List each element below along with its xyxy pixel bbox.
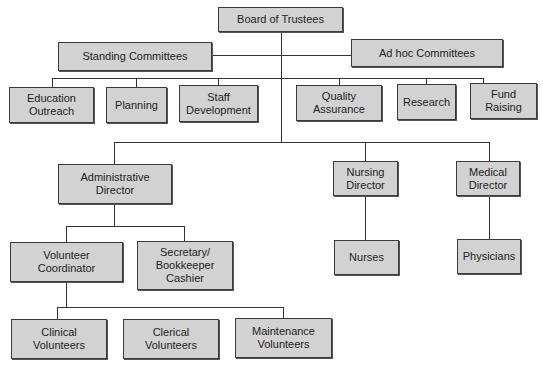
connector <box>283 307 284 318</box>
node-standing-committees: Standing Committees <box>58 42 212 71</box>
node-label: Staff Development <box>186 91 251 117</box>
node-research: Research <box>397 84 456 120</box>
node-administrative-director: Administrative Director <box>58 164 172 204</box>
node-label: Clerical Volunteers <box>145 326 197 352</box>
connector <box>218 78 219 85</box>
volunteer-branch-line <box>57 307 283 308</box>
connector <box>365 142 366 161</box>
connector <box>489 142 490 161</box>
node-label: Medical Director <box>469 166 508 192</box>
connector <box>339 78 340 85</box>
node-label: Nursing Director <box>346 166 385 192</box>
connector <box>66 282 67 307</box>
node-nursing-director: Nursing Director <box>333 161 398 196</box>
node-label: Administrative Director <box>80 171 149 197</box>
trunk-line <box>281 32 282 142</box>
node-label: Physicians <box>463 250 516 263</box>
node-clerical-volunteers: Clerical Volunteers <box>123 319 219 359</box>
node-label: Ad hoc Committees <box>379 47 475 60</box>
node-label: Quality Assurance <box>313 90 365 116</box>
node-label: Education Outreach <box>27 92 76 118</box>
connector <box>136 78 137 87</box>
connector <box>66 226 67 242</box>
admin-branch-line <box>66 226 184 227</box>
node-physicians: Physicians <box>457 239 521 274</box>
director-branch-line <box>114 142 489 143</box>
node-label: Secretary/ Bookkeeper Cashier <box>156 246 215 285</box>
node-quality-assurance: Quality Assurance <box>296 85 382 121</box>
committees-link <box>212 55 351 56</box>
node-label: Fund Raising <box>485 88 522 114</box>
node-education-outreach: Education Outreach <box>9 87 94 123</box>
node-secretary-bookkeeper-cashier: Secretary/ Bookkeeper Cashier <box>137 241 233 290</box>
node-planning: Planning <box>106 87 167 123</box>
node-label: Planning <box>115 99 158 112</box>
node-label: Research <box>403 96 450 109</box>
connector <box>365 196 366 240</box>
node-volunteer-coordinator: Volunteer Coordinator <box>10 242 123 282</box>
node-fund-raising: Fund Raising <box>470 83 537 119</box>
node-maintenance-volunteers: Maintenance Volunteers <box>235 318 332 358</box>
connector <box>114 142 115 164</box>
node-label: Volunteer Coordinator <box>38 249 95 275</box>
connector <box>489 196 490 239</box>
connector <box>184 226 185 241</box>
node-label: Standing Committees <box>82 50 187 63</box>
connector <box>52 78 53 87</box>
node-clinical-volunteers: Clinical Volunteers <box>11 319 107 359</box>
connector <box>57 307 58 319</box>
committee-branch-line <box>52 78 484 79</box>
node-label: Board of Trustees <box>237 13 324 26</box>
node-label: Clinical Volunteers <box>33 326 85 352</box>
node-medical-director: Medical Director <box>456 161 520 196</box>
node-board-of-trustees: Board of Trustees <box>218 7 343 32</box>
connector <box>114 204 115 226</box>
node-ad-hoc-committees: Ad hoc Committees <box>351 39 503 67</box>
node-nurses: Nurses <box>334 240 399 275</box>
node-label: Maintenance Volunteers <box>252 325 315 351</box>
node-staff-development: Staff Development <box>179 85 258 122</box>
node-label: Nurses <box>349 251 384 264</box>
